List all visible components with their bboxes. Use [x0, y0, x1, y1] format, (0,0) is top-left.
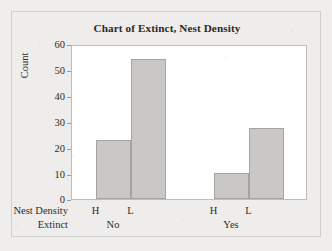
y-tick-label: 30 [43, 118, 65, 129]
y-tick-label: 20 [43, 144, 65, 155]
x-category-yes-l: L [231, 205, 266, 216]
y-axis-title: Count [19, 28, 30, 104]
bar-yes-l[interactable] [249, 128, 284, 199]
x-category-no-h: H [78, 205, 113, 216]
row-label-nest-density: Nest Density [12, 205, 68, 216]
y-tick-label: 0 [43, 195, 65, 206]
y-tick-mark [67, 200, 71, 201]
y-tick-label: 60 [43, 40, 65, 51]
x-category-no-l: L [113, 205, 148, 216]
x-group-yes: Yes [196, 219, 266, 230]
bar-no-l[interactable] [131, 59, 166, 199]
row-label-extinct: Extinct [12, 219, 68, 230]
chart-title: Chart of Extinct, Nest Density [12, 22, 322, 34]
bar-no-h[interactable] [96, 140, 131, 199]
plot-area [71, 45, 307, 200]
x-category-yes-h: H [196, 205, 231, 216]
bar-yes-h[interactable] [214, 173, 249, 199]
x-group-no: No [78, 219, 148, 230]
y-tick-label: 10 [43, 170, 65, 181]
y-tick-label: 40 [43, 92, 65, 103]
y-tick-label: 50 [43, 66, 65, 77]
chart-figure: Chart of Extinct, Nest Density Count 60 … [11, 11, 321, 237]
